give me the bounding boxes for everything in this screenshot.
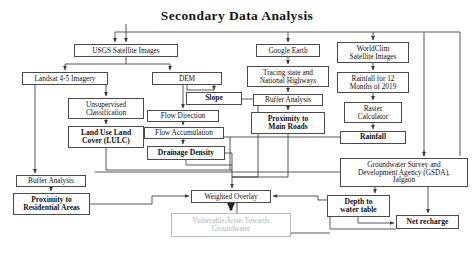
node-label: UnsupervisedClassification: [86, 101, 126, 117]
node-label: DEM: [179, 75, 195, 83]
node-proxroads: Proximity toMain Roads: [251, 112, 325, 134]
node-label: Rainfall for 12Months of 2019: [350, 75, 397, 91]
node-rain12: Rainfall for 12Months of 2019: [337, 72, 409, 93]
node-label: Drainage Density: [158, 149, 214, 157]
node-vulnerable: Vulnerable Areas TowardsGroundwater: [171, 213, 291, 237]
node-bufferres: Buffer Analysis: [16, 175, 86, 187]
node-weighted: Weighted Overlay: [191, 190, 271, 203]
node-tracing: Tracing state andNational Highways: [247, 66, 329, 87]
node-raster: RasterCalculator: [344, 102, 402, 123]
node-drainage: Drainage Density: [147, 146, 225, 160]
node-label: Depth towater table: [340, 198, 376, 214]
node-label: Tracing state andNational Highways: [260, 69, 317, 85]
proxroads-rail: [232, 134, 288, 177]
node-usgs: USGS Satellite Images: [74, 44, 178, 57]
node-label: Proximity toMain Roads: [268, 115, 309, 131]
node-netrecharge: Net recharge: [396, 215, 459, 229]
node-label: Weighted Overlay: [204, 193, 257, 201]
node-flowacc: Flow Accumulation: [144, 127, 224, 139]
node-label: Buffer Analysis: [28, 177, 74, 185]
proxres-to-weighted: [90, 196, 189, 204]
node-label: Groundwater Survey andDevelopment Agency…: [358, 161, 450, 185]
node-depth: Depth towater table: [327, 195, 390, 217]
node-label: WorldClimSatellite Images: [350, 45, 397, 61]
node-gearth: Google Earth: [256, 44, 320, 57]
node-bufferroads: Buffer Analysis: [253, 94, 323, 106]
node-label: Rainfall: [360, 133, 386, 141]
node-proxres: Proximity toResidential Areas: [13, 193, 90, 215]
node-label: Flow Accumulation: [155, 129, 213, 137]
node-label: Net recharge: [407, 218, 449, 226]
node-label: Landsat 4-5 Imagery: [35, 75, 96, 83]
node-label: Google Earth: [268, 47, 307, 55]
drainage-stem: [186, 160, 232, 165]
node-label: Land Use LandCover (LULC): [81, 129, 131, 145]
flowchart-page: Secondary Data Analysis: [0, 0, 474, 255]
node-lulc: Land Use LandCover (LULC): [68, 126, 144, 148]
node-label: Proximity toResidential Areas: [23, 196, 80, 212]
node-label: Vulnerable Areas TowardsGroundwater: [192, 217, 269, 233]
slope-rail: [232, 99, 258, 177]
depth-to-netrecharge: [358, 217, 394, 223]
node-label: Buffer Analysis: [265, 96, 311, 104]
node-slope: Slope: [186, 92, 242, 105]
node-rainfall: Rainfall: [340, 131, 406, 144]
node-unsup: UnsupervisedClassification: [68, 98, 144, 119]
node-label: Flow Direction: [161, 112, 205, 120]
node-gsda: Groundwater Survey andDevelopment Agency…: [340, 158, 468, 187]
node-label: Slope: [205, 94, 223, 102]
node-flowdir: Flow Direction: [147, 110, 219, 122]
node-worldclim: WorldClimSatellite Images: [337, 42, 409, 63]
node-label: USGS Satellite Images: [92, 47, 159, 55]
node-landsat: Landsat 4-5 Imagery: [22, 72, 108, 85]
node-label: RasterCalculator: [358, 105, 388, 121]
node-dem: DEM: [152, 72, 222, 85]
